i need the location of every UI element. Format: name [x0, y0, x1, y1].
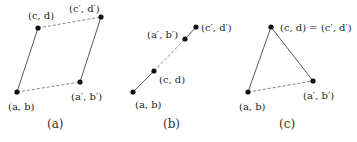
point-apbp	[310, 78, 315, 83]
label-cd-equals-cpdp: (c, d) = (c′, d′)	[280, 22, 352, 33]
label-cd: (c, d)	[159, 74, 185, 85]
panel-b: (a, b) (c, d) (a′, b′) (c′, d′) (b)	[130, 22, 231, 131]
label-ab: (a, b)	[8, 101, 35, 112]
caption-b: (b)	[163, 117, 180, 131]
panel-c: (a, b) (c, d) = (c′, d′) (a′, b′) (c)	[239, 22, 352, 131]
point-cd	[151, 68, 156, 73]
edge-ab-cd	[248, 27, 271, 92]
segment-configurations-diagram: (a, b) (c, d) (a′, b′) (c′, d′) (a) (a, …	[0, 0, 357, 142]
edge-cd-apbp-dashed	[154, 39, 185, 71]
label-apbp: (a′, b′)	[303, 90, 334, 101]
caption-c: (c)	[279, 117, 295, 131]
panel-a: (a, b) (c, d) (a′, b′) (c′, d′) (a)	[8, 3, 104, 131]
label-ab: (a, b)	[239, 101, 266, 112]
point-ab	[245, 89, 250, 94]
edge-ab-cd	[17, 28, 38, 92]
point-ab	[130, 89, 135, 94]
edge-apbp-cpdp	[80, 17, 101, 82]
label-cd: (c, d)	[28, 10, 54, 21]
point-ab	[14, 89, 19, 94]
edge-apbp-cd	[271, 27, 313, 81]
point-cd	[268, 24, 273, 29]
point-cd	[35, 25, 40, 30]
label-ab: (a, b)	[135, 99, 162, 110]
point-cpdp	[193, 24, 198, 29]
label-apbp: (a′, b′)	[147, 29, 178, 40]
point-apbp	[77, 79, 82, 84]
point-apbp	[182, 36, 187, 41]
label-apbp: (a′, b′)	[71, 91, 102, 102]
label-cpdp: (c′, d′)	[201, 22, 232, 33]
point-cpdp	[98, 14, 103, 19]
label-cpdp: (c′, d′)	[69, 3, 100, 14]
edge-ab-cd	[133, 71, 154, 92]
caption-a: (a)	[47, 117, 64, 131]
